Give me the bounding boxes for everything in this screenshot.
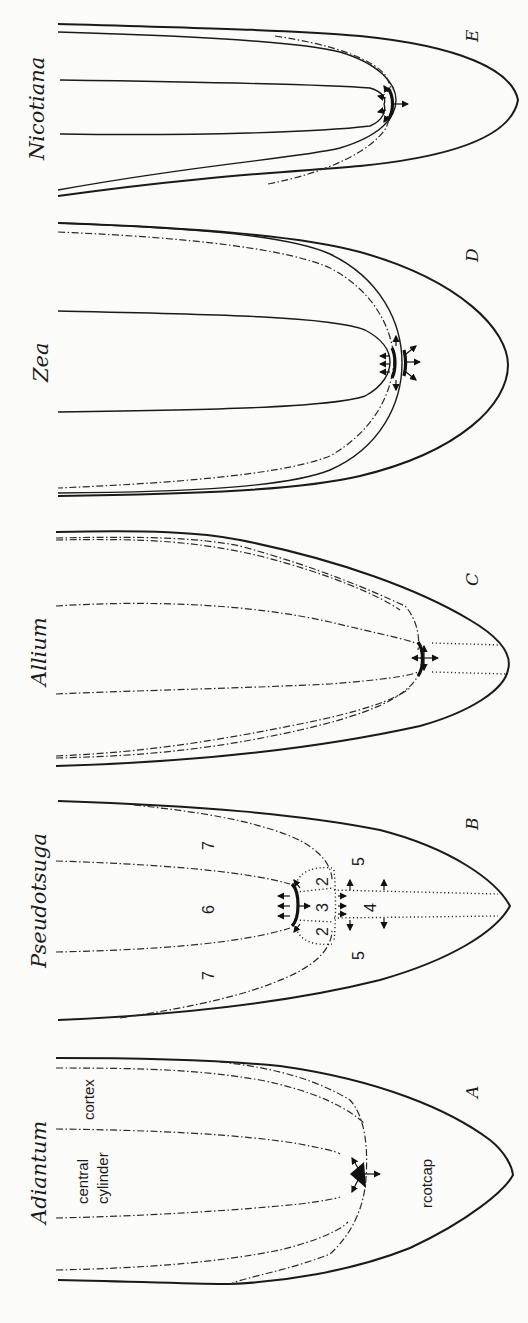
initial-cells-e xyxy=(388,88,393,120)
central-cylinder-d-lower xyxy=(58,362,390,412)
central-cylinder-c-upper xyxy=(56,603,418,644)
label-cylinder: cylinder xyxy=(94,1152,111,1204)
zone-number: 5 xyxy=(350,951,367,960)
central-cylinder-c-lower xyxy=(56,672,418,694)
initial-cells-d-outer xyxy=(404,350,406,376)
zone-number: 7 xyxy=(200,971,217,980)
panel-b-pseudotsuga: Pseudotsuga B 7 6 7 2 3 2 5 4 5 xyxy=(27,801,510,1020)
columella-b-lower xyxy=(334,916,498,918)
boundary-c-outer-lower xyxy=(56,688,410,756)
boundary-c-inner-upper xyxy=(56,537,419,650)
genus-label-e: Nicotiana xyxy=(25,57,49,161)
arrow-a-3 xyxy=(352,1180,358,1192)
arrow-e-2 xyxy=(378,96,386,98)
central-cylinder-e-lower xyxy=(60,104,385,135)
boundary-a-outer-upper xyxy=(56,1068,365,1124)
zone-b-dot-5 xyxy=(334,870,336,942)
panel-letter-a: A xyxy=(462,1086,482,1100)
rootcap-outline-d xyxy=(58,223,508,496)
boundary-e-lower xyxy=(268,112,392,184)
label-rootcap: rcotcap xyxy=(418,1159,435,1208)
genus-label-a: Adiantum xyxy=(27,1121,51,1226)
boundary-c-outer-upper xyxy=(56,540,400,610)
zone-number: 3 xyxy=(314,903,331,912)
rootcap-outline-a xyxy=(56,1058,513,1284)
boundary-a-outer-lower xyxy=(56,1222,348,1270)
panel-letter-c: C xyxy=(462,573,482,586)
panel-e-nicotiana: Nicotiana E xyxy=(25,24,518,196)
columella-c-upper xyxy=(432,643,500,645)
central-cylinder-e-upper xyxy=(60,80,385,104)
columella-c-lower xyxy=(432,672,506,674)
panel-c-allium: Allium C xyxy=(27,531,509,766)
arrow-d-3 xyxy=(406,372,416,380)
zone-b-dot-4 xyxy=(296,920,334,922)
apical-cell-a xyxy=(350,1162,366,1188)
zone-number: 2 xyxy=(314,877,331,886)
zone-b-dot-3 xyxy=(296,888,334,892)
zone-number: 6 xyxy=(200,905,217,914)
initial-cells-d xyxy=(392,348,395,378)
label-central: central xyxy=(74,1159,91,1204)
central-cylinder-d-upper xyxy=(58,311,390,362)
zone-number: 7 xyxy=(200,841,217,850)
panel-letter-d: D xyxy=(462,248,482,263)
arrow-a-2 xyxy=(352,1158,358,1168)
panel-letter-e: E xyxy=(462,29,482,43)
rootcap-outline-c xyxy=(56,531,509,766)
zone-number: 4 xyxy=(362,903,379,912)
boundary-b-lower xyxy=(120,930,332,1018)
root-apex-figure: Nicotiana E Zea D A xyxy=(0,0,528,1323)
genus-label-d: Zea xyxy=(29,342,53,383)
panel-letter-b: B xyxy=(462,818,482,832)
rootcap-outline-e xyxy=(58,24,518,196)
columella-b-upper xyxy=(334,890,498,894)
initial-cells-b xyxy=(292,884,298,926)
central-cylinder-b-lower xyxy=(56,928,290,952)
central-cylinder-b-upper xyxy=(56,861,290,884)
panel-d-zea: Zea D xyxy=(29,223,508,496)
boundary-d xyxy=(58,232,394,488)
boundary-a-cortex-outer xyxy=(220,1062,367,1284)
zone-number: 5 xyxy=(350,857,367,866)
boundary-b-upper xyxy=(134,805,332,880)
arrow-b-6 xyxy=(294,924,300,932)
genus-label-b: Pseudotsuga xyxy=(27,833,51,969)
initial-cells-c xyxy=(418,642,423,676)
zone-number: 2 xyxy=(314,927,331,936)
panel-a-adiantum: Adiantum central cylinder cortex rcotcap… xyxy=(27,1058,513,1284)
genus-label-c: Allium xyxy=(27,617,51,688)
arrow-d-2 xyxy=(406,346,416,354)
cortex-outline-d xyxy=(58,223,402,493)
label-cortex: cortex xyxy=(80,1079,97,1120)
central-cylinder-a-upper xyxy=(56,1129,340,1154)
figure-svg: Nicotiana E Zea D A xyxy=(0,0,528,1323)
